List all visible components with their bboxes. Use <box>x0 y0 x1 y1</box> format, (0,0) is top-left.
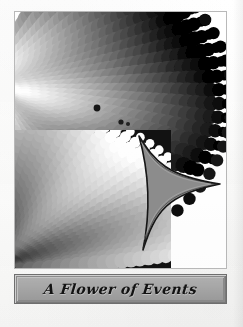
caption-text: A Flower of Events <box>43 281 198 297</box>
artwork-plate <box>15 12 226 268</box>
caption-banner: A Flower of Events <box>14 274 227 304</box>
generative-flower-illustration <box>15 12 226 268</box>
caption-banner-inner: A Flower of Events <box>16 276 225 302</box>
scanned-page: A Flower of Events <box>0 0 243 327</box>
